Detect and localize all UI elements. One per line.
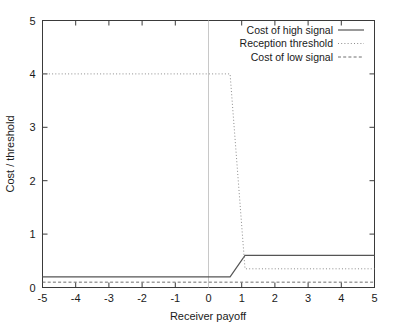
y-tick-label: 5 (29, 15, 35, 27)
y-axis-title: Cost / threshold (4, 115, 16, 192)
x-tick-label: -3 (104, 292, 114, 304)
legend-label: Cost of low signal (251, 51, 333, 63)
chart-figure: -5-4-3-2-1012345 012345 Receiver payoff … (0, 0, 393, 331)
x-tick-label: -1 (170, 292, 180, 304)
line-chart: -5-4-3-2-1012345 012345 Receiver payoff … (0, 0, 393, 331)
x-tick-label: -5 (38, 292, 48, 304)
y-tick-label: 2 (29, 175, 35, 187)
x-tick-label: -4 (71, 292, 81, 304)
x-tick-label: 3 (305, 292, 311, 304)
y-tick-label: 1 (29, 228, 35, 240)
y-tick-label: 3 (29, 121, 35, 133)
x-tick-label: 5 (371, 292, 377, 304)
x-tick-label: 4 (338, 292, 344, 304)
legend-label: Reception threshold (240, 37, 334, 49)
x-tick-label: 2 (272, 292, 278, 304)
chart-background (0, 0, 393, 331)
y-tick-label: 4 (29, 68, 35, 80)
legend-label: Cost of high signal (247, 24, 333, 36)
x-tick-label: 0 (205, 292, 211, 304)
y-tick-label: 0 (29, 282, 35, 294)
x-tick-label: -2 (137, 292, 147, 304)
x-tick-label: 1 (239, 292, 245, 304)
x-axis-title: Receiver payoff (170, 310, 247, 322)
